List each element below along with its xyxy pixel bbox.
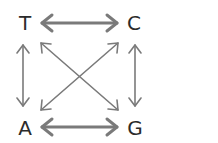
arrow-t-a — [17, 45, 29, 106]
arrows — [0, 0, 218, 143]
arrow-a-g — [42, 119, 117, 135]
arrow-c-g — [129, 45, 141, 106]
arrow-t-c — [42, 15, 117, 31]
